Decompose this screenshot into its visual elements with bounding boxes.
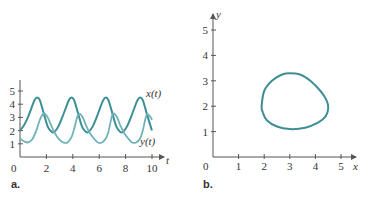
panel-b-chart: 12345 12345 0 x y b. [203,8,359,190]
y-tick-label: 1 [203,126,209,138]
panel-a-chart: 246810 12345 0 t x(t) y(t) a. [10,80,171,190]
y-tick-label: 3 [10,111,16,123]
x-tick-label: 4 [70,162,76,174]
figure: 246810 12345 0 t x(t) y(t) a. 12345 1234… [0,0,370,197]
panel-b-label: b. [203,178,213,190]
y-tick-label: 2 [203,100,209,112]
panel-b-x-axis-label: x [352,160,358,172]
x-tick-label: 3 [287,160,293,172]
x-of-t-label: x(t) [145,87,162,100]
y-of-t-curve [20,113,152,143]
y-tick-label: 4 [10,98,16,110]
phase-trajectory-curve [262,73,329,129]
x-tick-label: 2 [261,160,267,172]
y-tick-label: 5 [203,24,209,36]
y-tick-label: 4 [203,49,209,61]
x-tick-label: 2 [44,162,50,174]
x-tick-label: 10 [147,162,159,174]
x-tick-label: 1 [236,160,242,172]
panel-b-y-axis-label: y [215,8,221,20]
x-tick-label: 4 [313,160,319,172]
panel-b-y-ticks: 12345 [203,24,217,138]
y-tick-label: 1 [10,138,16,150]
panel-a-origin-label: 0 [11,162,17,174]
y-of-t-label: y(t) [139,135,156,148]
y-tick-label: 3 [203,75,209,87]
panel-b-origin-label: 0 [203,160,209,172]
x-tick-label: 6 [96,162,102,174]
panel-a-t-axis-label: t [166,154,170,166]
y-tick-label: 2 [10,125,16,137]
panel-a-label: a. [11,178,20,190]
x-tick-label: 5 [338,160,344,172]
x-tick-label: 8 [123,162,129,174]
y-tick-label: 5 [10,85,16,97]
